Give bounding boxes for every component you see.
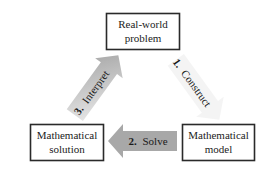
arrow-construct-label: 1. Construct — [171, 56, 214, 109]
edge-number: 2. — [128, 135, 137, 147]
diagram-canvas: 1. Construct 2. Solve 3. Interpret — [0, 0, 273, 171]
node-label-line-1: Real-world — [118, 18, 168, 30]
node-label-line-1: Mathematical — [37, 129, 97, 141]
node-mathematical-solution: Mathematical solution — [31, 125, 104, 161]
node-label-line-2: solution — [49, 143, 85, 155]
node-mathematical-model: Mathematical model — [183, 125, 255, 161]
modeling-cycle-diagram: 1. Construct 2. Solve 3. Interpret — [0, 0, 273, 171]
node-label-line-1: Mathematical — [188, 129, 248, 141]
node-label-line-2: model — [205, 143, 233, 155]
node-real-world-problem: Real-world problem — [107, 14, 180, 50]
arrow-interpret-label: 3. Interpret — [71, 68, 111, 117]
arrow-interpret: 3. Interpret — [61, 45, 132, 125]
node-label-line-2: problem — [125, 32, 162, 44]
arrow-construct: 1. Construct — [162, 50, 233, 130]
arrow-solve: 2. Solve — [108, 124, 177, 158]
arrow-solve-label: 2. Solve — [128, 135, 167, 147]
edge-label: Solve — [142, 135, 167, 147]
